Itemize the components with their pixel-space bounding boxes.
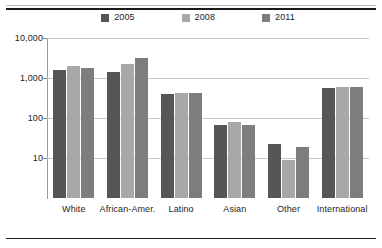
chart-figure: 200520082011 10,0001,00010010 WhiteAfric… xyxy=(0,0,382,248)
x-axis-label-African-Amer.: African-Amer. xyxy=(100,205,156,214)
bar-group-Asian xyxy=(208,38,262,198)
bottom-rule-divider xyxy=(6,238,376,239)
x-axis-label-Other: Other xyxy=(277,205,300,214)
bar-Other-2005[interactable] xyxy=(268,144,281,198)
bar-Asian-2011[interactable] xyxy=(242,125,255,198)
bar-International-2008[interactable] xyxy=(336,87,349,198)
bar-group-Latino xyxy=(154,38,208,198)
legend-swatch-icon xyxy=(101,14,109,22)
bar-International-2011[interactable] xyxy=(350,87,363,198)
top-hairline-divider xyxy=(6,5,376,6)
top-rule-divider xyxy=(6,8,376,10)
bar-group-White xyxy=(47,38,101,198)
bar-Other-2008[interactable] xyxy=(282,160,295,198)
legend-item-label: 2011 xyxy=(275,13,295,22)
bar-series-container xyxy=(47,38,369,198)
bar-International-2005[interactable] xyxy=(322,88,335,198)
bar-Latino-2005[interactable] xyxy=(161,94,174,199)
bar-White-2011[interactable] xyxy=(81,68,94,198)
y-tick-label: 100 xyxy=(0,114,43,123)
legend-item-2011[interactable]: 2011 xyxy=(262,13,295,22)
y-tick-label: 10 xyxy=(0,154,43,163)
bar-White-2008[interactable] xyxy=(67,66,80,198)
y-tick-label: 1,000 xyxy=(0,74,43,83)
bar-White-2005[interactable] xyxy=(53,70,66,198)
bar-Asian-2008[interactable] xyxy=(228,122,241,198)
y-tick-label: 10,000 xyxy=(0,34,43,43)
legend-item-label: 2008 xyxy=(195,13,215,22)
chart-legend: 200520082011 xyxy=(0,13,382,22)
plot-area xyxy=(47,38,369,198)
bar-group-African-Amer. xyxy=(101,38,155,198)
legend-swatch-icon xyxy=(182,14,190,22)
bar-Latino-2008[interactable] xyxy=(175,93,188,198)
x-axis-category-labels: WhiteAfrican-Amer.LatinoAsianOtherIntern… xyxy=(47,205,369,225)
x-axis-label-White: White xyxy=(62,205,86,214)
x-axis-label-Asian: Asian xyxy=(223,205,246,214)
bar-Latino-2011[interactable] xyxy=(189,93,202,198)
bar-group-Other xyxy=(262,38,316,198)
bar-Asian-2005[interactable] xyxy=(214,125,227,198)
y-axis-tick-labels: 10,0001,00010010 xyxy=(0,38,43,199)
legend-item-label: 2005 xyxy=(114,13,134,22)
legend-item-2005[interactable]: 2005 xyxy=(101,13,134,22)
x-axis-label-International: International xyxy=(317,205,368,214)
bar-Other-2011[interactable] xyxy=(296,147,309,198)
bar-African-Amer.-2005[interactable] xyxy=(107,72,120,198)
legend-item-2008[interactable]: 2008 xyxy=(182,13,215,22)
legend-swatch-icon xyxy=(262,14,270,22)
bar-African-Amer.-2011[interactable] xyxy=(135,58,148,198)
x-axis-label-Latino: Latino xyxy=(169,205,194,214)
bar-group-International xyxy=(315,38,369,198)
bar-African-Amer.-2008[interactable] xyxy=(121,64,134,198)
